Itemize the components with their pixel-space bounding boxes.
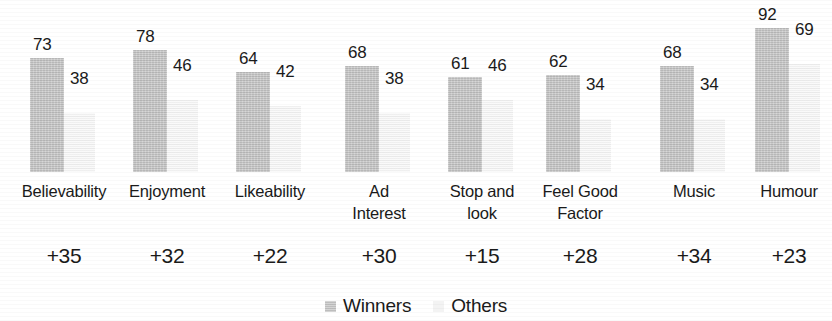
- category-label-line: Music: [673, 182, 715, 200]
- value-label-winners: 73: [33, 36, 52, 53]
- bar-pair: [236, 0, 336, 172]
- category-label: Stop andlook: [430, 180, 534, 224]
- value-label-winners: 92: [758, 6, 777, 23]
- bar-others: [379, 113, 410, 172]
- bar-group: 7846: [133, 0, 233, 175]
- difference-value: +28: [528, 242, 632, 270]
- difference-value: +34: [642, 242, 746, 270]
- value-label-others: 34: [700, 76, 719, 93]
- value-label-winners: 62: [549, 53, 568, 70]
- category-label: Likeability: [218, 180, 322, 202]
- value-label-others: 46: [488, 57, 507, 74]
- legend-item[interactable]: Winners: [325, 295, 411, 317]
- bar-winners: [546, 75, 580, 172]
- bar-group: 6234: [546, 0, 646, 175]
- difference-value: +32: [115, 242, 219, 270]
- bar-winners: [133, 50, 167, 172]
- bar-winners: [345, 66, 379, 172]
- bar-group: 6834: [660, 0, 760, 175]
- bar-pair: [448, 0, 548, 172]
- category-label-line: Believability: [22, 182, 107, 200]
- difference-value: +15: [430, 242, 534, 270]
- bar-others: [694, 119, 725, 172]
- chart-legend: WinnersOthers: [0, 291, 832, 321]
- bar-group: 6442: [236, 0, 336, 175]
- bar-winners: [30, 58, 64, 172]
- bar-group: 6838: [345, 0, 445, 175]
- grouped-bar-chart: 73387846644268386146623468349269 Believa…: [0, 0, 832, 321]
- difference-value: +35: [12, 242, 116, 270]
- others-swatch: [433, 301, 444, 312]
- value-label-others: 38: [70, 70, 89, 87]
- difference-value: +23: [737, 242, 832, 270]
- value-label-winners: 68: [348, 44, 367, 61]
- category-label: Humour: [737, 180, 832, 202]
- bar-others: [789, 64, 820, 172]
- category-label: AdInterest: [327, 180, 431, 224]
- bar-others: [167, 100, 198, 172]
- bar-others: [270, 106, 301, 172]
- category-label: Believability: [12, 180, 116, 202]
- bar-winners: [448, 77, 482, 172]
- category-label-line: look: [430, 202, 534, 224]
- bar-group: 7338: [30, 0, 130, 175]
- value-label-others: 46: [173, 57, 192, 74]
- legend-label: Others: [451, 295, 507, 317]
- difference-value: +22: [218, 242, 322, 270]
- category-label-line: Interest: [327, 202, 431, 224]
- bar-winners: [660, 66, 694, 172]
- category-label-line: Enjoyment: [129, 182, 205, 200]
- legend-item[interactable]: Others: [433, 295, 507, 317]
- category-axis-labels: BelievabilityEnjoymentLikeabilityAdInter…: [0, 180, 832, 232]
- value-label-others: 34: [586, 76, 605, 93]
- bar-others: [482, 100, 513, 172]
- bar-winners: [755, 28, 789, 172]
- value-label-winners: 61: [451, 55, 470, 72]
- difference-value: +30: [327, 242, 431, 270]
- bar-winners: [236, 72, 270, 172]
- category-label: Feel GoodFactor: [528, 180, 632, 224]
- category-label-line: Humour: [760, 182, 818, 200]
- bar-others: [580, 119, 611, 172]
- category-label-line: Ad: [369, 182, 389, 200]
- plot-area: 73387846644268386146623468349269: [0, 0, 832, 175]
- winners-swatch: [325, 301, 336, 312]
- category-label: Music: [642, 180, 746, 202]
- legend-label: Winners: [343, 295, 411, 317]
- bar-pair: [755, 0, 832, 172]
- value-label-winners: 68: [663, 44, 682, 61]
- value-label-winners: 78: [136, 28, 155, 45]
- bar-group: 9269: [755, 0, 832, 175]
- category-label-line: Factor: [528, 202, 632, 224]
- value-label-others: 38: [385, 70, 404, 87]
- category-label-line: Stop and: [450, 182, 514, 200]
- value-label-others: 42: [276, 63, 295, 80]
- category-label-line: Feel Good: [542, 182, 617, 200]
- difference-row: +35+32+22+30+15+28+34+23: [0, 242, 832, 274]
- category-label-line: Likeability: [235, 182, 305, 200]
- bar-pair: [133, 0, 233, 172]
- bar-group: 6146: [448, 0, 548, 175]
- value-label-winners: 64: [239, 50, 258, 67]
- bar-others: [64, 113, 95, 172]
- value-label-others: 69: [795, 21, 814, 38]
- category-label: Enjoyment: [115, 180, 219, 202]
